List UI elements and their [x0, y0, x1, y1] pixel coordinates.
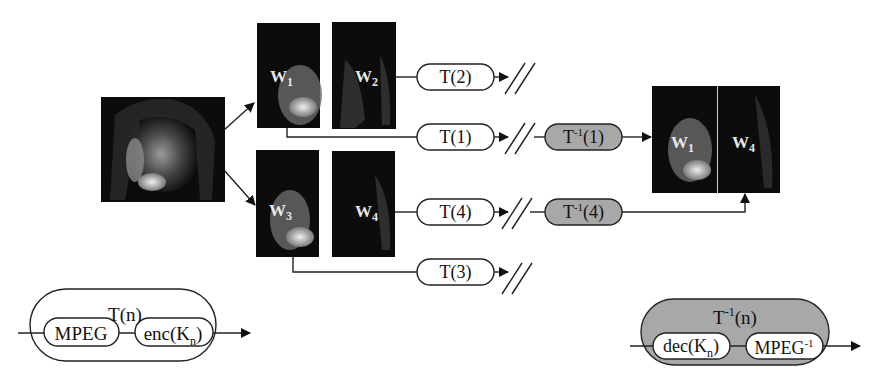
channel-break-t1 [494, 123, 545, 154]
tile-w3: W3 [256, 150, 319, 257]
tile-w4: W4 [332, 151, 395, 257]
svg-text:T(3): T(3) [440, 262, 472, 283]
legend-encode-title: T(n) [108, 304, 142, 326]
channel-break-t2 [494, 63, 535, 94]
transform-t4: T(4) [417, 199, 494, 225]
diagram-canvas: W1 W2 W3 W4 T(2) T(1) T(4) T(3) [0, 0, 884, 386]
legend-decode-title: T-1(n) [713, 305, 757, 329]
svg-text:T-1(4): T-1(4) [563, 201, 604, 223]
split-arrow-top [224, 103, 254, 130]
transform-t3: T(3) [417, 259, 494, 285]
transform-t1: T(1) [417, 124, 494, 150]
arrow-to-output-w4 [622, 194, 745, 212]
legend-mpeg: MPEG [55, 323, 108, 344]
legend-encode: T(n) MPEG enc(Kn) [18, 289, 250, 361]
channel-break-t3 [494, 263, 532, 294]
legend-decode: T-1(n) dec(Kn) MPEG-1 [630, 299, 860, 365]
split-arrow-bottom [224, 170, 255, 205]
tile-w2: W2 [332, 22, 396, 129]
inverse-transform-4: T-1(4) [545, 199, 622, 225]
svg-text:T(1): T(1) [440, 127, 472, 148]
channel-break-t4 [494, 198, 545, 229]
svg-text:T(4): T(4) [440, 202, 472, 223]
transform-t2: T(2) [417, 64, 494, 90]
svg-text:T-1(1): T-1(1) [563, 126, 604, 148]
source-photo [101, 97, 225, 202]
output-image: W1 W4 [652, 86, 780, 193]
tile-w1: W1 [257, 23, 322, 128]
inverse-transform-1: T-1(1) [545, 124, 622, 150]
svg-text:T(2): T(2) [440, 67, 472, 88]
